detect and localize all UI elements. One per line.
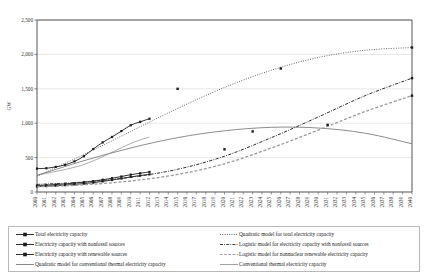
- x-tick-label: 2011: [135, 197, 141, 208]
- legend-label: Electricity capacity with renewable sour…: [35, 250, 127, 259]
- series-marker: [73, 183, 75, 185]
- x-tick-label: 2019: [210, 197, 216, 208]
- legend-label: Total electricity capacity: [35, 230, 87, 239]
- legend-key-dashed: [219, 250, 239, 259]
- x-tick-label: 2012: [145, 197, 151, 208]
- scatter-point: [411, 46, 413, 48]
- legend-item: Logistic model for nonnuclear renewable …: [219, 249, 419, 259]
- legend-label: Electricity capacity with nonfossil sour…: [35, 240, 125, 249]
- series-marker: [130, 174, 132, 176]
- x-tick-label: 2007: [98, 197, 104, 208]
- x-tick-label: 2015: [173, 197, 179, 208]
- x-tick-label: 2040: [407, 197, 413, 208]
- legend-item: Quadratic model for total electricity ca…: [219, 229, 419, 239]
- scatter-point: [223, 148, 225, 150]
- x-tick-label: 2009: [116, 197, 122, 208]
- x-tick-label: 2028: [295, 197, 301, 208]
- chart-legend: Total electricity capacity Electricity c…: [8, 226, 420, 272]
- scatter-point: [176, 88, 178, 90]
- x-tick-label: 2016: [182, 197, 188, 208]
- legend-label: Conventional thermal electricity capacit…: [239, 260, 327, 269]
- legend-label: Logistic model for electricity capacity …: [239, 240, 369, 249]
- scatter-point: [411, 94, 413, 96]
- x-tick-label: 2018: [201, 197, 207, 208]
- x-tick-label: 2034: [351, 197, 357, 208]
- series-marker: [148, 171, 150, 173]
- series-marker: [111, 136, 113, 138]
- series-line: [37, 48, 412, 177]
- legend-key-solid-thin: [219, 260, 239, 269]
- x-tick-label: 2037: [379, 197, 385, 208]
- x-tick-label: 2031: [323, 197, 329, 208]
- series-marker: [83, 155, 85, 157]
- series-line: [37, 78, 412, 184]
- x-tick-label: 2010: [126, 197, 132, 208]
- x-tick-label: 2006: [88, 197, 94, 208]
- series-marker: [148, 118, 150, 120]
- y-tick-label: 2,000: [21, 51, 33, 57]
- series-marker: [73, 160, 75, 162]
- series-marker: [120, 130, 122, 132]
- chart-svg: 05001,0001,5002,0002,500GW20002001200220…: [0, 0, 433, 222]
- legend-key-solid-marker: [15, 250, 35, 259]
- x-tick-label: 2005: [79, 197, 85, 208]
- x-tick-label: 2024: [257, 197, 263, 208]
- x-tick-label: 2017: [191, 197, 197, 208]
- scatter-point: [411, 77, 413, 79]
- x-tick-label: 2035: [360, 197, 366, 208]
- legend-key-solid-marker: [15, 240, 35, 249]
- y-tick-label: 1,000: [21, 120, 33, 126]
- series-marker: [120, 175, 122, 177]
- series-marker: [45, 167, 47, 169]
- x-tick-label: 2014: [163, 197, 169, 208]
- y-tick-label: 500: [25, 155, 33, 161]
- x-tick-label: 2020: [220, 197, 226, 208]
- chart-plot-area: 05001,0001,5002,0002,500GW20002001200220…: [0, 0, 433, 222]
- series-line: [37, 137, 150, 175]
- legend-item: Logistic model for electricity capacity …: [219, 239, 419, 249]
- scatter-point: [280, 67, 282, 69]
- x-tick-label: 2000: [32, 197, 38, 208]
- y-tick-label: 1,500: [21, 86, 33, 92]
- x-tick-label: 2004: [70, 197, 76, 208]
- x-tick-label: 2026: [276, 197, 282, 208]
- x-tick-label: 2025: [266, 197, 272, 208]
- x-tick-label: 2023: [248, 197, 254, 208]
- x-tick-label: 2001: [41, 197, 47, 208]
- series-marker: [139, 172, 141, 174]
- legend-key-dashdot: [219, 240, 239, 249]
- x-tick-label: 2002: [51, 197, 57, 208]
- x-tick-label: 2008: [107, 197, 113, 208]
- legend-label: Quadratic model for conventional thermal…: [35, 260, 166, 269]
- legend-column-left: Total electricity capacity Electricity c…: [9, 229, 215, 271]
- y-tick-label: 2,500: [21, 17, 33, 23]
- scatter-point: [251, 130, 253, 132]
- legend-key-solid-gray: [15, 260, 35, 269]
- x-tick-label: 2032: [332, 197, 338, 208]
- x-tick-label: 2033: [341, 197, 347, 208]
- legend-item: Conventional thermal electricity capacit…: [219, 260, 419, 270]
- legend-key-dotted: [219, 230, 239, 239]
- legend-item: Quadratic model for conventional thermal…: [15, 260, 215, 270]
- x-tick-label: 2030: [313, 197, 319, 208]
- series-marker: [139, 121, 141, 123]
- legend-column-right: Quadratic model for total electricity ca…: [215, 229, 419, 271]
- x-tick-label: 2027: [285, 197, 291, 208]
- legend-label: Quadratic model for total electricity ca…: [239, 230, 334, 239]
- x-tick-label: 2013: [154, 197, 160, 208]
- series-marker: [92, 182, 94, 184]
- y-tick-label: 0: [30, 189, 33, 195]
- series-marker: [36, 168, 38, 170]
- x-tick-label: 2029: [304, 197, 310, 208]
- y-axis-title: GW: [6, 101, 12, 111]
- legend-label: Logistic model for nonnuclear renewable …: [239, 250, 368, 259]
- figure: 05001,0001,5002,0002,500GW20002001200220…: [0, 0, 433, 280]
- series-line: [37, 96, 412, 187]
- scatter-point: [326, 124, 328, 126]
- series-marker: [64, 164, 66, 166]
- legend-item: Electricity capacity with renewable sour…: [15, 249, 215, 259]
- series-line: [37, 127, 412, 175]
- series-marker: [102, 141, 104, 143]
- x-tick-label: 2022: [238, 197, 244, 208]
- series-marker: [130, 124, 132, 126]
